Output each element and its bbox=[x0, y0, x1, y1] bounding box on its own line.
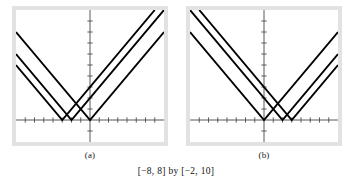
panel-a-label: (a) bbox=[12, 150, 168, 160]
plot-area-a bbox=[16, 10, 164, 142]
figure-caption: [−8, 8] by [−2, 10] bbox=[0, 166, 352, 176]
panel-a: (a) bbox=[12, 6, 168, 146]
panel-b: (b) bbox=[186, 6, 342, 146]
plot-area-b bbox=[190, 10, 338, 142]
plot-svg-b bbox=[190, 10, 338, 142]
panel-row: (a) (b) bbox=[0, 0, 352, 160]
panel-b-label: (b) bbox=[186, 150, 342, 160]
axes-b bbox=[190, 10, 338, 142]
absolute-value-graphs-figure: (a) (b) [−8, 8] by [−2, 10] bbox=[0, 0, 352, 191]
plot-svg-a bbox=[16, 10, 164, 142]
axes-a bbox=[16, 10, 164, 142]
